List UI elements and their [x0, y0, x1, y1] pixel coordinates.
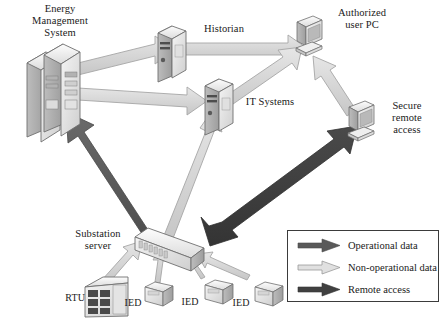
legend-item-remote-access: Remote access — [296, 279, 410, 299]
legend-label-operational-data: Operational data — [348, 240, 418, 251]
label-ied-3: IED — [227, 297, 255, 308]
network-diagram: Energy Management System Historian IT Sy… — [0, 0, 447, 326]
label-historian: Historian — [192, 23, 256, 35]
legend-label-non-operational-data: Non-operational data — [348, 262, 437, 273]
server-icon-historian — [158, 26, 186, 82]
ied-box-icon-1 — [145, 282, 173, 306]
legend: Operational data Non-operational data Re… — [287, 230, 439, 302]
label-it-systems: IT Systems — [235, 96, 305, 108]
non-operational-arrow-icon — [296, 260, 342, 275]
arrow-ied3-to-substation — [197, 252, 250, 280]
server-icon-itsystems — [205, 79, 233, 135]
label-authorized-user-pc: Authorized user PC — [323, 7, 401, 31]
ied-box-icon-3 — [255, 282, 283, 306]
label-rtu: RTU — [53, 292, 85, 303]
label-ied-2: IED — [176, 296, 204, 307]
arrow-ems-to-itsystems — [78, 87, 207, 115]
label-energy-management-system: Energy Management System — [8, 3, 112, 38]
legend-item-operational-data: Operational data — [296, 235, 418, 255]
legend-label-remote-access: Remote access — [348, 284, 410, 295]
desktop-pc-icon-userpc — [296, 16, 322, 56]
arrow-substation-to-ems — [66, 112, 152, 240]
label-secure-remote-access: Secure remote access — [376, 100, 438, 135]
label-substation-server: Substation server — [60, 228, 136, 252]
desktop-pc-icon-remote — [348, 101, 374, 141]
operational-arrow-icon — [296, 238, 342, 253]
server-tower-icon — [27, 44, 80, 142]
arrow-substation-to-remote — [201, 126, 357, 246]
legend-item-non-operational-data: Non-operational data — [296, 257, 437, 277]
label-ied-1: IED — [119, 297, 147, 308]
remote-access-arrow-icon — [296, 282, 342, 297]
